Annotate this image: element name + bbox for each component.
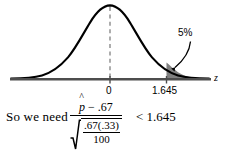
normal-curve-chart <box>0 0 227 100</box>
radicand: .67(.33) 100 <box>81 118 122 150</box>
radical-sign-icon <box>70 118 81 150</box>
radicand-denominator: 100 <box>83 133 120 146</box>
fraction-denominator: .67(.33) 100 <box>70 116 122 150</box>
square-root-expression: .67(.33) 100 <box>70 118 122 150</box>
hat-accent: ^ <box>79 94 84 100</box>
p-letter: p <box>79 100 85 114</box>
tick-label-critical-value: 1.645 <box>152 85 177 96</box>
p-hat-symbol: ^ p <box>79 100 85 114</box>
test-statistic-fraction: ^ p − .67 .67(.33) 100 <box>70 100 122 150</box>
formula-block: So we need ^ p − .67 .67(.33) <box>4 100 227 161</box>
callout-leader-line <box>175 42 191 68</box>
x-axis-label-z: z <box>214 72 218 83</box>
numerator-rest: − .67 <box>88 100 113 114</box>
normal-distribution-figure: 5% 0 1.645 z So we need ^ p − .67 <box>0 0 227 161</box>
fraction-numerator: ^ p − .67 <box>70 100 122 115</box>
radicand-numerator: .67(.33) <box>83 119 120 132</box>
formula-lead-text: So we need <box>6 109 68 125</box>
tick-label-zero: 0 <box>106 85 112 96</box>
shaded-area-percent-label: 5% <box>178 27 192 38</box>
inequality-comparison: < 1.645 <box>136 109 176 125</box>
